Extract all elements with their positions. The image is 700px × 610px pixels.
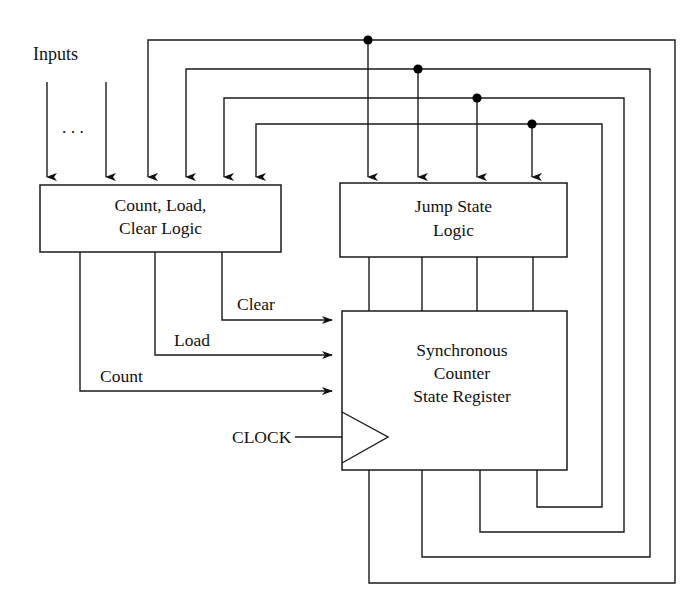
signal-label-load: Load bbox=[174, 330, 210, 350]
block-label-register-line3: State Register bbox=[413, 386, 511, 406]
block-diagram: Count, Load, Clear Logic Jump State Logi… bbox=[0, 0, 700, 610]
block-label-jump-state-line1: Jump State bbox=[415, 196, 493, 216]
inputs-label: Inputs bbox=[33, 44, 78, 64]
block-label-count-load-clear-line1: Count, Load, bbox=[115, 195, 207, 215]
feedback-loop-1 bbox=[148, 35, 675, 583]
junction-dot-1 bbox=[363, 35, 372, 44]
signal-label-count: Count bbox=[100, 366, 143, 386]
block-label-register-line1: Synchronous bbox=[416, 340, 508, 360]
jump-to-register-wires bbox=[369, 257, 533, 311]
input-ellipsis: . . . bbox=[62, 117, 84, 137]
junction-dot-2 bbox=[413, 64, 422, 73]
clock-label: CLOCK bbox=[232, 427, 292, 447]
figure-canvas: Count, Load, Clear Logic Jump State Logi… bbox=[0, 0, 700, 610]
block-label-register-line2: Counter bbox=[434, 363, 491, 383]
block-label-count-load-clear-line2: Clear Logic bbox=[119, 218, 202, 238]
junction-dot-4 bbox=[527, 119, 536, 128]
junction-dot-3 bbox=[472, 93, 481, 102]
signal-label-clear: Clear bbox=[237, 294, 275, 314]
block-label-jump-state-line2: Logic bbox=[433, 220, 474, 240]
